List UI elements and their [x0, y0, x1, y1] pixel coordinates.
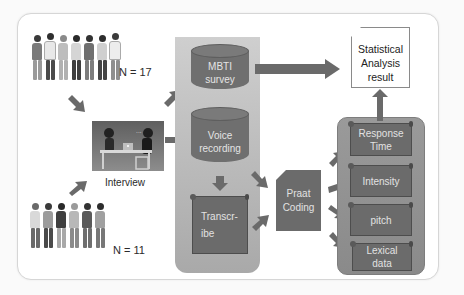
arrow-features-to-result-icon [372, 89, 388, 121]
transcribe-label-line2: ibe [201, 227, 214, 240]
feature-intensity: Intensity [350, 165, 412, 197]
participant-group-female [31, 33, 121, 80]
person-icon [55, 203, 67, 248]
arrow-voice-to-praat-icon [250, 171, 270, 189]
mbti-label-line2: survey [191, 73, 249, 86]
arrow-mbti-to-result-icon [255, 59, 341, 79]
praat-coding-box: Praat Coding [276, 170, 321, 231]
voice-label-line1: Voice [191, 129, 249, 142]
transcribe-document: Transcr- ibe [192, 196, 248, 254]
praat-label-line2: Coding [283, 201, 315, 215]
group-count-female: N = 17 [119, 66, 152, 78]
result-line2: Analysis [352, 56, 409, 70]
person-icon [29, 203, 41, 248]
interview-image: ... [92, 121, 164, 171]
response-time-line1: Response [358, 127, 403, 140]
feature-lexical-data: Lexical data [352, 243, 412, 271]
intensity-label: Intensity [362, 175, 399, 188]
feature-response-time: Response Time [350, 123, 412, 156]
interview-scene-icon: ... [92, 121, 164, 171]
result-line3: result [352, 70, 409, 84]
arrow-transcribe-to-praat-icon [251, 214, 271, 232]
participant-group-male [29, 203, 106, 248]
person-icon [44, 33, 56, 80]
result-line1: Statistical [352, 42, 409, 56]
person-icon [57, 35, 69, 80]
arrow-group-to-interview-icon [67, 181, 89, 197]
feature-pitch: pitch [350, 204, 412, 236]
voice-recording-database: Voice recording [191, 107, 249, 162]
mbti-survey-database: MBTI survey [191, 44, 249, 89]
lexical-line2: data [372, 257, 391, 270]
arrow-group-to-interview-icon [66, 95, 88, 115]
transcribe-label-line1: Transcr- [201, 210, 238, 223]
voice-label-line2: recording [191, 142, 249, 155]
statistical-analysis-result: Statistical Analysis result [351, 27, 410, 88]
lexical-line1: Lexical [366, 244, 397, 257]
person-icon [96, 35, 108, 80]
group-count-male: N = 11 [113, 244, 145, 256]
interview-label: Interview [105, 177, 145, 188]
pitch-label: pitch [370, 214, 391, 227]
person-icon [31, 35, 43, 80]
person-icon [42, 203, 54, 248]
person-icon [70, 35, 82, 80]
person-icon [83, 35, 95, 80]
arrow-voice-to-transcribe-icon [212, 176, 228, 191]
person-icon [94, 203, 106, 248]
response-time-line2: Time [370, 140, 392, 153]
mbti-label-line1: MBTI [191, 60, 249, 73]
person-icon [68, 203, 80, 248]
person-icon [81, 203, 93, 248]
praat-label-line1: Praat [287, 187, 311, 201]
svg-text:...: ... [136, 127, 142, 134]
